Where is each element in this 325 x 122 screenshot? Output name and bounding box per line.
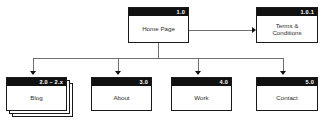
- arrowhead-blog: [30, 71, 36, 75]
- node-work-label: Work: [172, 86, 231, 110]
- arrowhead-terms: [252, 27, 256, 33]
- connector-home-to-terms: [188, 30, 254, 31]
- node-blog-number: 2.0 – 2.x: [7, 78, 66, 86]
- node-home-page-number: 1.0: [129, 8, 188, 16]
- node-contact-label: Contact: [257, 86, 317, 110]
- connector-home-stem: [158, 43, 159, 58]
- node-about-number: 3.0: [92, 78, 151, 86]
- node-terms-conditions[interactable]: 1.0.1 Terms & Conditions: [256, 7, 318, 43]
- node-about-label: About: [92, 86, 151, 110]
- node-terms-conditions-label: Terms & Conditions: [257, 16, 317, 42]
- arrowhead-about: [115, 71, 121, 75]
- node-home-page[interactable]: 1.0 Home Page: [128, 7, 189, 43]
- arrowhead-work: [195, 71, 201, 75]
- node-home-page-label: Home Page: [129, 16, 188, 42]
- node-blog-label: Blog: [7, 86, 66, 110]
- connector-bus: [33, 58, 283, 59]
- node-work-number: 4.0: [172, 78, 231, 86]
- node-contact-number: 5.0: [257, 78, 317, 86]
- node-blog[interactable]: 2.0 – 2.x Blog: [6, 77, 67, 111]
- node-terms-conditions-number: 1.0.1: [257, 8, 317, 16]
- arrowhead-contact: [280, 71, 286, 75]
- sitemap-diagram: 1.0 Home Page 1.0.1 Terms & Conditions 2…: [0, 0, 325, 122]
- node-about[interactable]: 3.0 About: [91, 77, 152, 111]
- node-work[interactable]: 4.0 Work: [171, 77, 232, 111]
- node-contact[interactable]: 5.0 Contact: [256, 77, 318, 111]
